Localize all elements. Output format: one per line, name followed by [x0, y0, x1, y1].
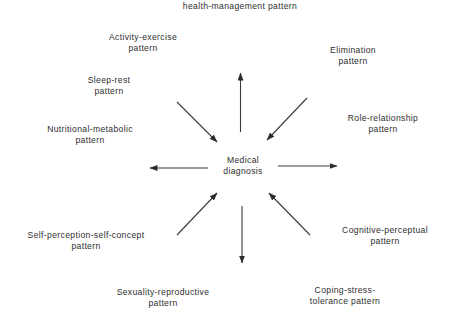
node-sexuality-reproductive: Sexuality-reproductive pattern — [117, 287, 210, 308]
node-label-line: pattern — [109, 43, 177, 54]
node-label-line: Coping-stress- — [310, 285, 380, 296]
center-line-2: diagnosis — [223, 166, 262, 177]
node-label-line: Activity-exercise — [109, 32, 177, 43]
node-label-line: pattern — [47, 135, 133, 146]
node-label-line: Sleep-rest — [88, 75, 131, 86]
center-medical-diagnosis: Medical diagnosis — [223, 155, 262, 176]
node-health-perception: health-management pattern — [183, 1, 297, 12]
node-label-line: pattern — [348, 124, 418, 135]
node-label-line: health-management pattern — [183, 1, 297, 12]
functional-health-patterns-diagram: Medical diagnosis health-management patt… — [0, 0, 452, 333]
node-self-perception: Self-perception-self-concept pattern — [28, 230, 145, 251]
node-label-line: Role-relationship — [348, 113, 418, 124]
node-label-line: pattern — [88, 86, 131, 97]
arrow-from-sleep-rest-icon — [177, 102, 217, 142]
node-label-line: pattern — [342, 236, 428, 247]
node-nutritional-metabolic: Nutritional-metabolic pattern — [47, 124, 133, 145]
node-role-relationship: Role-relationship pattern — [348, 113, 418, 134]
node-cognitive-perceptual: Cognitive-perceptual pattern — [342, 225, 428, 246]
node-activity-exercise: Activity-exercise pattern — [109, 32, 177, 53]
center-line-1: Medical — [223, 155, 262, 166]
node-label-line: Self-perception-self-concept — [28, 230, 145, 241]
node-label-line: pattern — [117, 298, 210, 309]
node-label-line: Nutritional-metabolic — [47, 124, 133, 135]
node-sleep-rest: Sleep-rest pattern — [88, 75, 131, 96]
node-label-line: Elimination — [330, 45, 376, 56]
node-coping-stress: Coping-stress- tolerance pattern — [310, 285, 380, 306]
arrow-from-self-perception-icon — [177, 193, 217, 235]
node-label-line: Sexuality-reproductive — [117, 287, 210, 298]
arrow-from-elimination-icon — [267, 98, 307, 140]
node-elimination: Elimination pattern — [330, 45, 376, 66]
arrow-from-cognitive-perceptual-icon — [269, 193, 310, 235]
node-label-line: pattern — [330, 56, 376, 67]
node-label-line: pattern — [28, 241, 145, 252]
node-label-line: Cognitive-perceptual — [342, 225, 428, 236]
node-label-line: tolerance pattern — [310, 296, 380, 307]
